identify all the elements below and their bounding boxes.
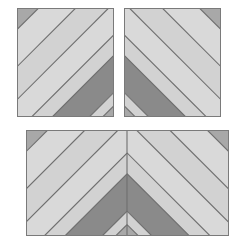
composition-canvas: [0, 0, 246, 243]
block-bottom-chevron-artwork: [26, 130, 229, 236]
chevron-right-half: [127, 130, 229, 236]
block-top-right-artwork: [124, 8, 221, 117]
block-top-right: [124, 8, 221, 117]
chevron-left-half: [26, 130, 127, 236]
block-top-left-artwork: [17, 8, 114, 117]
block-bottom-chevron: [26, 130, 229, 236]
block-top-left: [17, 8, 114, 117]
